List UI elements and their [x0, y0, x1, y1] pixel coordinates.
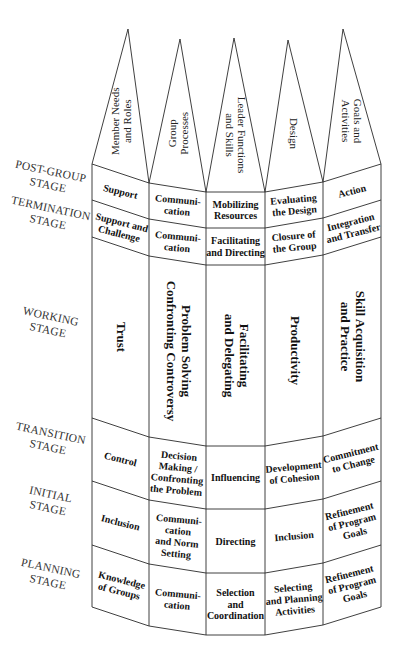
- cell-text-line: Support: [102, 182, 139, 201]
- stage-cell: Skill Acquisitionand Practice: [338, 291, 368, 383]
- cell-text-line: Confronting Controversy: [164, 281, 179, 422]
- dimension-label-line: Design: [288, 118, 300, 150]
- cell-text-line: Productivity: [288, 316, 303, 386]
- stage-cell: MobilizingResources: [212, 199, 258, 222]
- row-boundary-line: [92, 481, 381, 509]
- stage-label: TRANSITIONSTAGE: [12, 420, 87, 460]
- row-boundary-line: [92, 418, 381, 446]
- cell-text-line: Facilitating: [237, 324, 252, 388]
- dimension-label: Design: [288, 118, 300, 150]
- dimension-label: Goals andActivities: [340, 99, 364, 144]
- dimension-label-line: and Roles: [121, 99, 133, 143]
- cell-text-line: Selection: [216, 587, 255, 598]
- dimension-label: Leader Functionsand Skills: [224, 97, 248, 174]
- stage-cell: Productivity: [288, 316, 303, 386]
- cell-text-line: and Directing: [206, 247, 264, 258]
- dimension-label: GroupProcesses: [166, 112, 190, 155]
- stage-cell: Commitmentto Change: [322, 441, 383, 477]
- dimension-label-line: and Skills: [224, 113, 236, 157]
- cell-text-line: and Delegating: [222, 314, 237, 398]
- stage-cell: Evaluatingthe Design: [270, 192, 318, 218]
- stage-cell: Communi-cation: [154, 229, 202, 255]
- cell-text-line: Skill Acquisition: [353, 291, 368, 383]
- cell-text-line: cation: [164, 205, 191, 218]
- cell-text-line: Inclusion: [100, 512, 141, 532]
- stage-cell: Trust: [114, 322, 129, 353]
- stage-cell: Refinementof ProgramGoals: [324, 499, 381, 544]
- dimension-label-line: Member Needs: [109, 87, 121, 155]
- cell-text-line: Mobilizing: [212, 199, 258, 210]
- stage-label: INITIALSTAGE: [25, 484, 73, 518]
- stage-label: POST-GROUPSTAGE: [12, 158, 88, 198]
- stage-label: WORKINGSTAGE: [19, 304, 80, 341]
- stage-label: TERMINATIONSTAGE: [7, 194, 92, 236]
- stage-cell: Influencing: [211, 472, 260, 483]
- stage-cell: Communi-cation: [154, 586, 202, 612]
- stage-cell: Facilitatingand Directing: [206, 235, 264, 258]
- stage-cell: Refinementof ProgramGoals: [324, 562, 381, 607]
- stage-cell: Communi-cation: [154, 192, 202, 218]
- stage-cell: Problem SolvingConfronting Controversy: [164, 281, 194, 422]
- group-stages-diagram: Member Needsand RolesGroupProcessesLeade…: [0, 0, 401, 670]
- stage-cells: SupportCommuni-cationMobilizingResources…: [92, 182, 383, 621]
- stage-cell: Support: [102, 182, 139, 201]
- row-boundary-line: [92, 545, 381, 573]
- cell-text-line: Directing: [216, 536, 256, 547]
- cell-text-line: Activities: [275, 603, 316, 617]
- stage-cell: Inclusion: [274, 529, 315, 543]
- cell-text-line: Resources: [214, 210, 257, 221]
- stage-cell: Directing: [216, 536, 256, 547]
- dimension-label-line: Goals and: [352, 99, 364, 144]
- stage-label: PLANNINGSTAGE: [17, 556, 81, 594]
- cell-text-line: cation: [164, 241, 191, 254]
- cell-text-line: Setting: [161, 547, 192, 561]
- cell-text-line: Action: [337, 182, 368, 200]
- cell-text-line: and Practice: [338, 302, 353, 372]
- stage-cell: Developmentof Cohesion: [265, 459, 324, 486]
- stage-cell: Control: [103, 450, 138, 469]
- stage-cell: Inclusion: [100, 512, 141, 532]
- dimension-label-line: Activities: [340, 100, 352, 143]
- stage-cell: SelectionandCoordination: [207, 587, 265, 621]
- stage-cell: DecisionMaking /Confrontingthe Problem: [149, 448, 206, 498]
- stage-labels: POST-GROUPSTAGETERMINATIONSTAGEWORKINGST…: [7, 158, 92, 594]
- stage-cell: Closure ofthe Group: [271, 228, 317, 254]
- cell-text-line: Influencing: [211, 472, 260, 483]
- dimension-peak: [265, 40, 323, 192]
- cell-text-line: and: [227, 599, 244, 610]
- cell-text-line: Problem Solving: [179, 305, 194, 397]
- cell-text-line: Trust: [114, 322, 129, 353]
- cell-text-line: Facilitating: [211, 235, 260, 246]
- cell-text-line: Control: [103, 450, 138, 469]
- stage-cell: Facilitatingand Delegating: [222, 314, 252, 398]
- dimension-label-line: Group: [166, 119, 178, 148]
- stage-cell: Communi-cationand NormSetting: [153, 512, 203, 561]
- stage-cell: Selectingand PlanningActivities: [264, 580, 324, 619]
- dimension-label: Member Needsand Roles: [109, 87, 133, 155]
- cell-text-line: cation: [164, 599, 191, 612]
- cell-text-line: Inclusion: [274, 529, 315, 543]
- dimension-label-line: Leader Functions: [236, 97, 248, 174]
- cell-text-line: Coordination: [207, 610, 265, 621]
- stage-cell: Knowledgeof Groups: [95, 569, 147, 603]
- stage-cell: Action: [337, 182, 368, 200]
- dimension-label-line: Processes: [178, 112, 190, 155]
